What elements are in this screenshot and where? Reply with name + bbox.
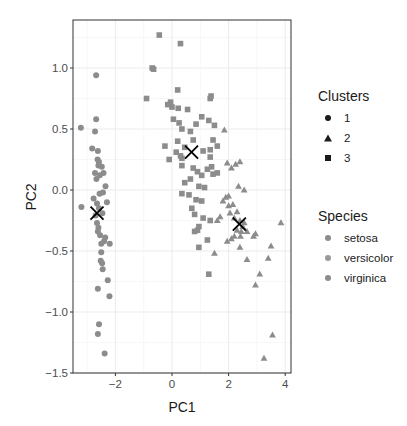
svg-text:−1.0: −1.0 bbox=[45, 306, 68, 318]
legend-item-cluster-3: 3 bbox=[318, 148, 369, 168]
legend-item-cluster-2: 2 bbox=[318, 128, 369, 148]
legend-item-versicolor: versicolor bbox=[318, 248, 393, 268]
legend-label: virginica bbox=[344, 272, 386, 284]
svg-text:0: 0 bbox=[169, 378, 175, 390]
circle-icon bbox=[318, 248, 338, 268]
legend-label: versicolor bbox=[344, 252, 393, 264]
circle-icon bbox=[318, 268, 338, 288]
svg-text:0.5: 0.5 bbox=[52, 123, 68, 135]
triangle-icon bbox=[318, 128, 338, 148]
y-axis-title: PC2 bbox=[23, 183, 39, 210]
svg-text:−2: −2 bbox=[109, 378, 122, 390]
svg-text:4: 4 bbox=[282, 378, 289, 390]
x-axis-title: PC1 bbox=[168, 399, 195, 415]
svg-text:−0.5: −0.5 bbox=[45, 245, 68, 257]
circle-icon bbox=[318, 108, 338, 128]
legend-item-setosa: setosa bbox=[318, 228, 393, 248]
legend-label: 2 bbox=[344, 132, 350, 144]
svg-text:1.0: 1.0 bbox=[52, 62, 68, 74]
svg-text:2: 2 bbox=[225, 378, 231, 390]
svg-text:−1.5: −1.5 bbox=[45, 367, 68, 379]
legend-title-species: Species bbox=[318, 208, 393, 224]
legend-item-cluster-1: 1 bbox=[318, 108, 369, 128]
legend-label: 1 bbox=[344, 112, 350, 124]
svg-text:0.0: 0.0 bbox=[52, 184, 68, 196]
square-icon bbox=[318, 148, 338, 168]
circle-icon bbox=[318, 228, 338, 248]
clusters-legend: Clusters 1 2 3 bbox=[318, 88, 369, 168]
legend-title-clusters: Clusters bbox=[318, 88, 369, 104]
legend-label: 3 bbox=[344, 152, 350, 164]
legend-label: setosa bbox=[344, 232, 378, 244]
plot-panel bbox=[73, 20, 291, 373]
species-legend: Species setosa versicolor virginica bbox=[318, 208, 393, 288]
legend-item-virginica: virginica bbox=[318, 268, 393, 288]
